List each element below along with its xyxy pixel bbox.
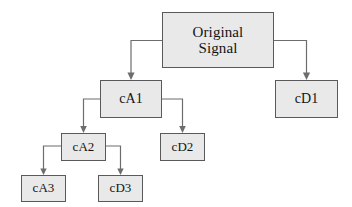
edge-root-to-ca1	[127, 41, 162, 81]
edge-ca1-to-ca2	[80, 99, 100, 133]
node-ca2: cA2	[61, 133, 106, 161]
wavelet-decomposition-diagram: Original Signal cA1 cD1 cA2 cD2 cA3 cD3	[0, 0, 352, 207]
edge-ca2-to-ca3	[40, 146, 61, 175]
node-ca3: cA3	[21, 175, 66, 202]
node-ca1: cA1	[100, 80, 162, 118]
node-cd1: cD1	[275, 80, 338, 118]
node-cd3: cD3	[98, 175, 143, 202]
node-original-signal: Original Signal	[162, 12, 274, 68]
node-cd2: cD2	[160, 133, 205, 161]
edge-ca2-to-cd3	[106, 146, 124, 175]
edge-root-to-cd1	[274, 41, 310, 81]
edge-ca1-to-cd2	[162, 99, 186, 133]
